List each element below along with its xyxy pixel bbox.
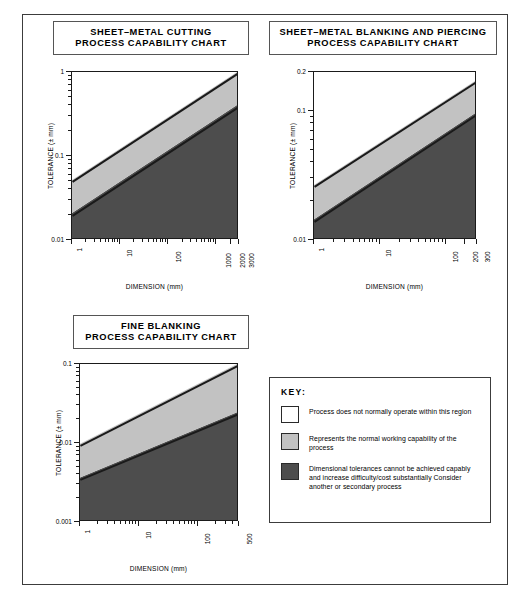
key-label: Process does not normally operate within…	[309, 405, 471, 416]
y-axis-label: TOLERANCE (± mm)	[289, 123, 296, 189]
axis-tick	[425, 239, 426, 242]
key-label: Represents the normal working capability…	[309, 432, 480, 453]
axis-tick	[364, 239, 365, 242]
x-tick-label: 200	[472, 251, 479, 262]
axis-tick	[182, 239, 183, 242]
chart-title-line-1: SHEET–METAL CUTTING	[90, 27, 212, 39]
axis-tick	[120, 521, 121, 524]
axis-tick	[68, 159, 71, 160]
axis-tick	[76, 473, 79, 474]
axis-tick	[76, 466, 79, 467]
plot-frame	[79, 363, 238, 521]
x-tick-label: 100	[205, 533, 212, 544]
x-tick-label: 1	[317, 248, 324, 252]
axis-tick	[310, 177, 313, 178]
axis-tick	[379, 239, 380, 244]
axis-tick	[156, 239, 157, 242]
axis-tick	[129, 521, 130, 524]
axis-tick	[68, 188, 71, 189]
y-tick-label: 0.01	[31, 236, 64, 243]
axis-tick	[173, 521, 174, 524]
axis-tick	[310, 149, 313, 150]
axis-tick	[418, 239, 419, 242]
key-swatch-dark-grey	[281, 463, 299, 480]
axis-tick	[184, 521, 185, 524]
axis-tick	[160, 239, 161, 242]
key-swatch-white	[281, 406, 299, 423]
axis-tick	[167, 239, 168, 244]
axis-tick	[76, 387, 79, 388]
key-legend-box: KEY: Process does not normally operate w…	[269, 377, 491, 523]
axis-tick	[225, 521, 226, 524]
axis-tick	[76, 483, 79, 484]
axis-tick	[68, 90, 71, 91]
axis-tick	[204, 239, 205, 242]
key-swatch-light-grey	[281, 433, 299, 450]
axis-tick	[76, 446, 79, 447]
axis-tick	[76, 450, 79, 451]
chart-title-line-2: PROCESS CAPABILITY CHART	[85, 332, 236, 344]
axis-tick	[85, 239, 86, 242]
plot-frame	[71, 71, 238, 239]
axis-tick	[68, 168, 71, 169]
x-tick-label: 2000	[239, 253, 246, 267]
chart-title-line-2: PROCESS CAPABILITY CHART	[75, 38, 226, 50]
axis-tick	[190, 239, 191, 242]
axis-tick	[119, 239, 120, 244]
y-tick-label: 1	[31, 68, 64, 75]
axis-tick	[68, 130, 71, 131]
axis-tick	[308, 110, 313, 111]
axis-tick	[142, 239, 143, 242]
axis-tick	[132, 521, 133, 524]
axis-tick	[68, 174, 71, 175]
axis-tick	[310, 130, 313, 131]
axis-tick	[156, 521, 157, 524]
y-tick-label: 0.2	[265, 68, 306, 75]
axis-tick	[438, 239, 439, 242]
axis-tick	[196, 239, 197, 242]
chart-title-box: SHEET–METAL BLANKING AND PIERCING PROCES…	[269, 21, 497, 55]
axis-tick	[68, 115, 71, 116]
axis-tick	[464, 239, 465, 244]
axis-tick	[153, 239, 154, 242]
chart-title-box: SHEET–METAL CUTTING PROCESS CAPABILITY C…	[53, 21, 249, 55]
axis-tick	[442, 239, 443, 242]
chart-title-box: FINE BLANKING PROCESS CAPABILITY CHART	[73, 315, 249, 349]
figure-sheet: SHEET–METAL CUTTING PROCESS CAPABILITY C…	[22, 14, 508, 585]
axis-tick	[100, 239, 101, 242]
axis-tick	[71, 239, 72, 244]
axis-tick	[410, 239, 411, 242]
plot-area	[313, 71, 476, 239]
axis-tick	[213, 239, 214, 242]
axis-tick	[68, 214, 71, 215]
y-tick-label: 0.1	[31, 152, 64, 159]
axis-tick	[359, 239, 360, 242]
x-tick-label: 3000	[248, 253, 255, 267]
axis-tick	[76, 381, 79, 382]
plot-area	[79, 363, 238, 521]
axis-tick	[313, 239, 314, 244]
axis-tick	[66, 155, 71, 156]
axis-tick	[74, 442, 79, 443]
axis-tick	[76, 418, 79, 419]
axis-tick	[308, 71, 313, 72]
axis-tick	[238, 521, 239, 526]
y-tick-label: 0.001	[31, 518, 72, 525]
axis-tick	[76, 460, 79, 461]
axis-tick	[476, 239, 477, 244]
key-item-light-grey: Represents the normal working capability…	[281, 432, 480, 453]
y-tick-label: 0.01	[31, 439, 72, 446]
axis-tick	[68, 104, 71, 105]
axis-tick	[232, 521, 233, 524]
chart-title-line-2: PROCESS CAPABILITY CHART	[307, 38, 458, 50]
axis-tick	[125, 521, 126, 524]
axis-tick	[94, 239, 95, 242]
x-axis-label: DIMENSION (mm)	[59, 565, 258, 572]
x-axis-label: DIMENSION (mm)	[51, 283, 258, 290]
x-tick-label: 10	[125, 250, 132, 257]
axis-tick	[215, 239, 216, 244]
axis-tick	[372, 239, 373, 242]
key-heading: KEY:	[281, 387, 480, 397]
key-item-dark-grey: Dimensional tolerances cannot be achieve…	[281, 462, 480, 492]
key-label: Dimensional tolerances cannot be achieve…	[309, 462, 480, 492]
